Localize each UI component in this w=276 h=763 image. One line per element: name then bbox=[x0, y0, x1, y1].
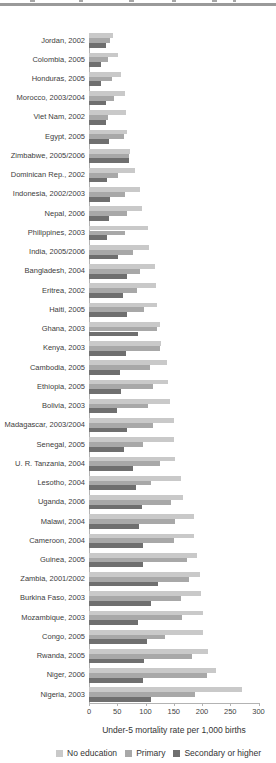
legend-swatch-secondary-or-higher-icon bbox=[173, 750, 180, 757]
country-label: Nepal, 2006 bbox=[0, 209, 85, 219]
bar-secondary-or-higher bbox=[89, 81, 101, 86]
figure-page: Jordan, 2002Colombia, 2005Honduras, 2005… bbox=[0, 0, 276, 763]
legend-label: Secondary or higher bbox=[184, 748, 261, 758]
x-axis-tick-label: 0 bbox=[77, 707, 101, 716]
country-label: Mozambique, 2003 bbox=[0, 613, 85, 623]
x-axis-tick-label: 300 bbox=[247, 707, 271, 716]
bar-secondary-or-higher bbox=[89, 505, 142, 510]
legend: No educationPrimarySecondary or higher bbox=[56, 748, 261, 758]
country-label: Lesotho, 2004 bbox=[0, 478, 85, 488]
country-label: India, 2005/2006 bbox=[0, 247, 85, 257]
bar-secondary-or-higher bbox=[89, 178, 107, 183]
bar-secondary-or-higher bbox=[89, 524, 139, 529]
country-label: Egypt, 2005 bbox=[0, 132, 85, 142]
country-label: Kenya, 2003 bbox=[0, 343, 85, 353]
x-axis-tick-label: 250 bbox=[218, 707, 242, 716]
country-label: Nigeria, 2003 bbox=[0, 690, 85, 700]
country-label: Dominican Rep., 2002 bbox=[0, 170, 85, 180]
country-label: Senegal, 2005 bbox=[0, 440, 85, 450]
legend-swatch-primary-icon bbox=[125, 750, 132, 757]
bar-secondary-or-higher bbox=[89, 543, 143, 548]
country-label: Ghana, 2003 bbox=[0, 324, 85, 334]
x-axis-tick-label: 200 bbox=[190, 707, 214, 716]
legend-swatch-no-education-icon bbox=[56, 750, 63, 757]
bar-secondary-or-higher bbox=[89, 678, 143, 683]
bar-secondary-or-higher bbox=[89, 101, 106, 106]
country-label: Uganda, 2006 bbox=[0, 497, 85, 507]
bar-secondary-or-higher bbox=[89, 408, 117, 413]
legend-label: No education bbox=[67, 748, 117, 758]
bar-secondary-or-higher bbox=[89, 235, 107, 240]
country-label: Cambodia, 2005 bbox=[0, 363, 85, 373]
legend-item-secondary-or-higher: Secondary or higher bbox=[173, 748, 261, 758]
country-label: Haiti, 2005 bbox=[0, 305, 85, 315]
x-axis-tick-label: 100 bbox=[134, 707, 158, 716]
country-label: Zambia, 2001/2002 bbox=[0, 574, 85, 584]
bar-secondary-or-higher bbox=[89, 620, 138, 625]
x-axis-tick-label: 50 bbox=[105, 707, 129, 716]
country-label: Jordan, 2002 bbox=[0, 36, 85, 46]
country-label: Viet Nam, 2002 bbox=[0, 112, 85, 122]
bar-secondary-or-higher bbox=[89, 562, 143, 567]
bar-secondary-or-higher bbox=[89, 697, 151, 702]
country-label: Eritrea, 2002 bbox=[0, 286, 85, 296]
bar-secondary-or-higher bbox=[89, 332, 138, 337]
country-label: Philippines, 2003 bbox=[0, 228, 85, 238]
country-label: Madagascar, 2003/2004 bbox=[0, 420, 85, 430]
country-label: Morocco, 2003/2004 bbox=[0, 93, 85, 103]
x-axis-tick bbox=[202, 703, 203, 706]
bar-secondary-or-higher bbox=[89, 216, 109, 221]
bar-secondary-or-higher bbox=[89, 370, 120, 375]
country-label: Indonesia, 2002/2003 bbox=[0, 189, 85, 199]
bar-secondary-or-higher bbox=[89, 62, 101, 67]
country-label: Bolivia, 2003 bbox=[0, 401, 85, 411]
x-axis-tick bbox=[174, 703, 175, 706]
legend-item-primary: Primary bbox=[125, 748, 165, 758]
bar-secondary-or-higher bbox=[89, 120, 106, 125]
bar-secondary-or-higher bbox=[89, 428, 127, 433]
x-axis-tick-label: 150 bbox=[162, 707, 186, 716]
bar-secondary-or-higher bbox=[89, 389, 121, 394]
bar-secondary-or-higher bbox=[89, 158, 129, 163]
country-label: Honduras, 2005 bbox=[0, 74, 85, 84]
x-axis-tick bbox=[146, 703, 147, 706]
country-label: Niger, 2006 bbox=[0, 670, 85, 680]
country-label: Ethiopia, 2005 bbox=[0, 382, 85, 392]
country-label: Zimbabwe, 2005/2006 bbox=[0, 151, 85, 161]
bar-secondary-or-higher bbox=[89, 43, 106, 48]
x-axis-tick bbox=[259, 703, 260, 706]
header-divider-rule bbox=[0, 3, 276, 6]
bar-secondary-or-higher bbox=[89, 601, 151, 606]
bar-secondary-or-higher bbox=[89, 312, 127, 317]
country-label: Guinea, 2005 bbox=[0, 555, 85, 565]
bar-secondary-or-higher bbox=[89, 274, 127, 279]
country-label: Burkina Faso, 2003 bbox=[0, 593, 85, 603]
bar-secondary-or-higher bbox=[89, 139, 109, 144]
country-label: Colombia, 2005 bbox=[0, 55, 85, 65]
bar-secondary-or-higher bbox=[89, 197, 110, 202]
bar-secondary-or-higher bbox=[89, 351, 126, 356]
x-axis-tick bbox=[230, 703, 231, 706]
country-label: Cameroon, 2004 bbox=[0, 536, 85, 546]
country-label: Congo, 2005 bbox=[0, 632, 85, 642]
country-label: Rwanda, 2005 bbox=[0, 651, 85, 661]
bar-secondary-or-higher bbox=[89, 485, 136, 490]
country-label: Bangladesh, 2004 bbox=[0, 266, 85, 276]
country-label: Malawi, 2004 bbox=[0, 517, 85, 527]
bar-secondary-or-higher bbox=[89, 659, 144, 664]
bar-secondary-or-higher bbox=[89, 582, 158, 587]
bar-secondary-or-higher bbox=[89, 466, 133, 471]
bar-secondary-or-higher bbox=[89, 293, 123, 298]
country-label: U. R. Tanzania, 2004 bbox=[0, 459, 85, 469]
bar-secondary-or-higher bbox=[89, 447, 124, 452]
x-axis-tick bbox=[117, 703, 118, 706]
legend-item-no-education: No education bbox=[56, 748, 117, 758]
legend-label: Primary bbox=[136, 748, 165, 758]
x-axis-tick bbox=[89, 703, 90, 706]
x-axis-title: Under-5 mortality rate per 1,000 births bbox=[64, 725, 276, 735]
bar-secondary-or-higher bbox=[89, 639, 147, 644]
bar-secondary-or-higher bbox=[89, 255, 118, 260]
